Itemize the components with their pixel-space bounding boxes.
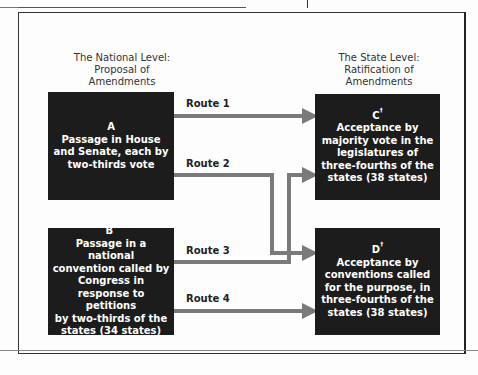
box-letter: B* [51, 225, 171, 238]
box-text-line: Congress in [51, 275, 171, 288]
box-text-line: Passage in a national [51, 238, 171, 263]
box-text-line: Acceptance by [318, 257, 437, 270]
box-letter: C† [318, 110, 437, 123]
route-2-label: Route 2 [186, 158, 230, 169]
route-1-label: Route 1 [186, 98, 230, 109]
box-text-line: majority vote in the [318, 135, 437, 148]
box-text-line: Passage in House [51, 134, 171, 147]
box-b: B* Passage in a national convention call… [48, 228, 174, 335]
box-text-line: states (38 states) [318, 172, 437, 185]
box-text-line: legislatures of [318, 147, 437, 160]
box-a: A Passage in House and Senate, each by t… [48, 92, 174, 200]
box-text-line: response to petitions [51, 288, 171, 313]
box-text-line: states (38 states) [318, 307, 437, 320]
route-3-label: Route 3 [186, 245, 230, 256]
box-d: D† Acceptance by conventions called for … [315, 228, 440, 335]
route-4-label: Route 4 [186, 293, 230, 304]
box-text-line: by two-thirds of the [51, 313, 171, 326]
box-text-line: conventions called [318, 269, 437, 282]
box-letter: D† [318, 244, 437, 257]
box-text-line: three-fourths of the [318, 160, 437, 173]
box-text-line: for the purpose, in [318, 282, 437, 295]
box-letter: A [51, 121, 171, 134]
box-text-line: and Senate, each by [51, 146, 171, 159]
box-text-line: three-fourths of the [318, 294, 437, 307]
box-c: C† Acceptance by majority vote in the le… [315, 94, 440, 200]
box-text-line: convention called by [51, 263, 171, 276]
box-text-line: states (34 states) [51, 325, 171, 338]
box-text-line: Acceptance by [318, 122, 437, 135]
route-2-line [172, 175, 305, 253]
box-text-line: two-thirds vote [51, 159, 171, 172]
